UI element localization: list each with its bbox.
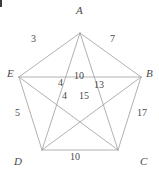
pentagon-side-EA bbox=[19, 33, 80, 77]
side-length-label-DE: 5 bbox=[15, 108, 20, 118]
diagonal-length-label-AD: 10 bbox=[74, 71, 84, 81]
diagonal-length-label-BE: 4 bbox=[62, 91, 67, 101]
side-length-label-CD: 10 bbox=[70, 152, 80, 162]
pentagon-diagonal-BD bbox=[42, 77, 141, 150]
geometry-figure: ABCDE371710513101544 bbox=[0, 0, 159, 172]
vertex-label-A: A bbox=[76, 5, 83, 16]
side-length-label-BC: 17 bbox=[137, 108, 147, 118]
vertex-label-D: D bbox=[14, 156, 22, 167]
diagonal-length-label-AC: 13 bbox=[94, 80, 104, 90]
pentagon-side-DE bbox=[19, 77, 42, 150]
side-length-label-AB: 7 bbox=[110, 34, 115, 44]
vertex-label-C: C bbox=[140, 156, 147, 167]
vertex-label-B: B bbox=[146, 68, 153, 79]
pentagon-diagonal-AD bbox=[42, 33, 80, 150]
pentagon-diagram-svg bbox=[0, 0, 159, 172]
side-length-label-EA: 3 bbox=[31, 34, 36, 44]
diagonal-length-label-CE: 4 bbox=[58, 78, 63, 88]
diagonal-length-label-BD: 15 bbox=[79, 91, 89, 101]
vertex-label-E: E bbox=[7, 68, 14, 79]
